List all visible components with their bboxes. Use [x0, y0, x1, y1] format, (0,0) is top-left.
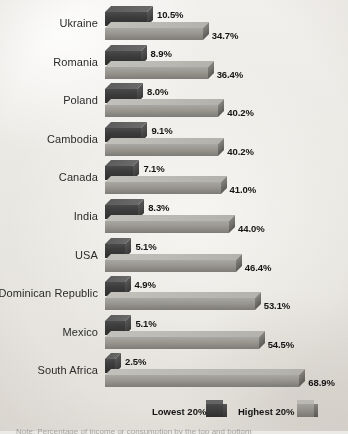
value-label-lowest: 5.1% — [135, 318, 156, 329]
legend-swatch-lowest — [206, 404, 223, 417]
category-label: India — [74, 210, 98, 222]
value-label-highest: 68.9% — [308, 377, 334, 388]
value-label-highest: 44.0% — [238, 223, 264, 234]
value-label-highest: 40.2% — [227, 146, 253, 157]
category-label: Romania — [53, 56, 98, 68]
category-label: Cambodia — [47, 133, 98, 145]
value-label-lowest: 8.3% — [148, 202, 169, 213]
value-label-lowest: 9.1% — [151, 125, 172, 136]
category-label: Mexico — [63, 326, 98, 338]
category-label: Dominican Republic — [0, 287, 98, 299]
value-label-lowest: 8.0% — [147, 86, 168, 97]
bar-highest-20 — [105, 221, 229, 233]
value-label-highest: 53.1% — [264, 300, 290, 311]
value-label-lowest: 4.9% — [135, 279, 156, 290]
chart-footnote: Note: Percentage of income or consumptio… — [16, 427, 252, 434]
bar-highest-20 — [105, 337, 259, 349]
category-label: Poland — [63, 94, 98, 106]
value-label-highest: 36.4% — [217, 69, 243, 80]
bar-highest-20 — [105, 260, 236, 272]
value-label-highest: 54.5% — [268, 339, 294, 350]
value-label-highest: 34.7% — [212, 30, 238, 41]
legend-swatch-highest — [297, 404, 314, 417]
value-label-highest: 41.0% — [230, 184, 256, 195]
value-label-highest: 46.4% — [245, 262, 271, 273]
value-label-lowest: 10.5% — [157, 9, 183, 20]
legend-label-lowest: Lowest 20% — [152, 406, 206, 417]
bar-highest-20 — [105, 144, 218, 156]
value-label-lowest: 5.1% — [135, 241, 156, 252]
category-label: USA — [75, 249, 98, 261]
bar-highest-20 — [105, 182, 221, 194]
category-label: South Africa — [37, 364, 98, 376]
bar-highest-20 — [105, 105, 218, 117]
value-label-highest: 40.2% — [227, 107, 253, 118]
legend-label-highest: Highest 20% — [238, 406, 295, 417]
bar-highest-20 — [105, 298, 255, 310]
bar-highest-20 — [105, 28, 203, 40]
value-label-lowest: 7.1% — [143, 163, 164, 174]
bar-highest-20 — [105, 375, 299, 387]
category-label: Canada — [59, 171, 98, 183]
category-label: Ukraine — [59, 17, 98, 29]
value-label-lowest: 8.9% — [151, 48, 172, 59]
value-label-lowest: 2.5% — [125, 356, 146, 367]
bar-highest-20 — [105, 67, 208, 79]
